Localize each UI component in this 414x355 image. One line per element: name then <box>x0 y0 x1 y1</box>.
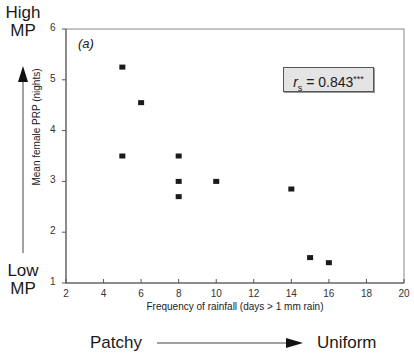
x-tick-label: 16 <box>323 288 334 299</box>
x-tick-label: 12 <box>248 288 259 299</box>
data-point-marker <box>119 154 125 159</box>
data-point-marker <box>307 255 313 260</box>
y-axis-label: Mean female PRP (nights) <box>31 68 42 185</box>
data-point-marker <box>176 179 182 184</box>
x-tick-label: 20 <box>398 288 409 299</box>
data-points <box>119 65 332 266</box>
x-tick-label: 4 <box>101 288 107 299</box>
data-point-marker <box>326 260 332 265</box>
y-tick-label: 6 <box>50 22 56 33</box>
x-tick-label: 8 <box>176 288 182 299</box>
right-arrow-icon <box>157 338 303 348</box>
correlation-stat-box: rs = 0.843*** <box>283 67 374 92</box>
y-tick-label: 3 <box>50 174 56 185</box>
data-point-marker <box>176 194 182 199</box>
x-axis-label: Frequency of rainfall (days > 1 mm rain) <box>146 301 323 312</box>
y-tick-label: 5 <box>50 73 56 84</box>
x-tick-label: 10 <box>211 288 222 299</box>
stat-value: = 0.843 <box>302 74 353 90</box>
x-tick-label: 2 <box>63 288 69 299</box>
panel-label: (a) <box>78 36 94 51</box>
up-arrow-icon <box>18 66 28 253</box>
data-point-marker <box>176 154 182 159</box>
data-point-marker <box>213 179 219 184</box>
data-point-marker <box>288 187 294 192</box>
x-tick-label: 18 <box>361 288 372 299</box>
y-tick-label: 1 <box>50 276 56 287</box>
x-tick-label: 6 <box>138 288 144 299</box>
x-tick-label: 14 <box>286 288 297 299</box>
stat-significance: *** <box>353 74 364 84</box>
data-point-marker <box>119 65 125 70</box>
data-point-marker <box>138 100 144 105</box>
y-tick-label: 2 <box>50 225 56 236</box>
y-tick-label: 4 <box>50 124 56 135</box>
